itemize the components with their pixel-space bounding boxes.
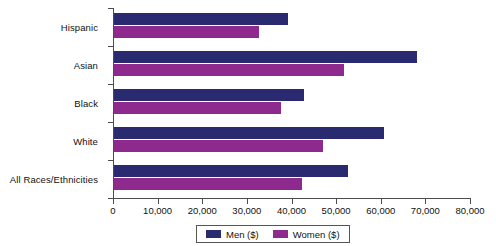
chart-category-row: All Races/Ethnicities	[0, 160, 496, 198]
legend-swatch-icon	[273, 230, 288, 238]
y-axis-tick	[108, 8, 114, 9]
bar-women	[114, 26, 259, 38]
x-axis-tick	[425, 199, 426, 204]
bar-men	[114, 165, 348, 177]
x-axis-tick-label: 40,000	[277, 205, 306, 216]
chart-plot-area: HispanicAsianBlackWhiteAll Races/Ethnici…	[0, 8, 496, 198]
x-axis-tick	[247, 199, 248, 204]
legend-label: Women ($)	[293, 229, 340, 240]
y-axis-category-label: All Races/Ethnicities	[10, 174, 98, 185]
legend-item[interactable]: Men ($)	[206, 229, 259, 240]
y-axis-tick	[108, 46, 114, 47]
bar-group	[114, 8, 471, 46]
x-axis-tick-label: 60,000	[366, 205, 395, 216]
x-axis-tick-label: 30,000	[232, 205, 261, 216]
bar-chart: HispanicAsianBlackWhiteAll Races/Ethnici…	[0, 0, 496, 246]
chart-legend: Men ($)Women ($)	[196, 225, 350, 243]
x-axis-tick	[381, 199, 382, 204]
bar-men	[114, 89, 304, 101]
chart-category-row: Hispanic	[0, 8, 496, 46]
chart-category-row: Asian	[0, 46, 496, 84]
y-axis-category-label: Hispanic	[61, 22, 98, 33]
bar-women	[114, 140, 323, 152]
legend-swatch-icon	[206, 230, 221, 238]
bar-women	[114, 102, 281, 114]
bar-group	[114, 160, 471, 198]
legend-label: Men ($)	[226, 229, 259, 240]
x-axis-tick-label: 20,000	[188, 205, 217, 216]
y-axis-tick	[108, 84, 114, 85]
x-axis-tick-label: 80,000	[455, 205, 484, 216]
chart-category-row: White	[0, 122, 496, 160]
y-axis-category-label: Black	[74, 98, 98, 109]
bar-men	[114, 51, 417, 63]
x-axis-tick	[113, 199, 114, 204]
bar-group	[114, 84, 471, 122]
bar-men	[114, 127, 384, 139]
x-axis-tick-label: 0	[110, 205, 115, 216]
bar-group	[114, 46, 471, 84]
x-axis-tick	[158, 199, 159, 204]
x-axis-tick-label: 10,000	[143, 205, 172, 216]
x-axis-tick	[470, 199, 471, 204]
x-axis-tick	[336, 199, 337, 204]
x-axis-tick-label: 50,000	[322, 205, 351, 216]
legend-item[interactable]: Women ($)	[273, 229, 340, 240]
bar-group	[114, 122, 471, 160]
bar-women	[114, 178, 302, 190]
x-axis-tick-label: 70,000	[411, 205, 440, 216]
bar-women	[114, 64, 344, 76]
y-axis-category-label: White	[73, 136, 98, 147]
chart-category-row: Black	[0, 84, 496, 122]
x-axis-tick	[292, 199, 293, 204]
x-axis-tick	[202, 199, 203, 204]
y-axis-tick	[108, 122, 114, 123]
bar-men	[114, 13, 288, 25]
y-axis-tick	[108, 160, 114, 161]
y-axis-category-label: Asian	[74, 60, 98, 71]
